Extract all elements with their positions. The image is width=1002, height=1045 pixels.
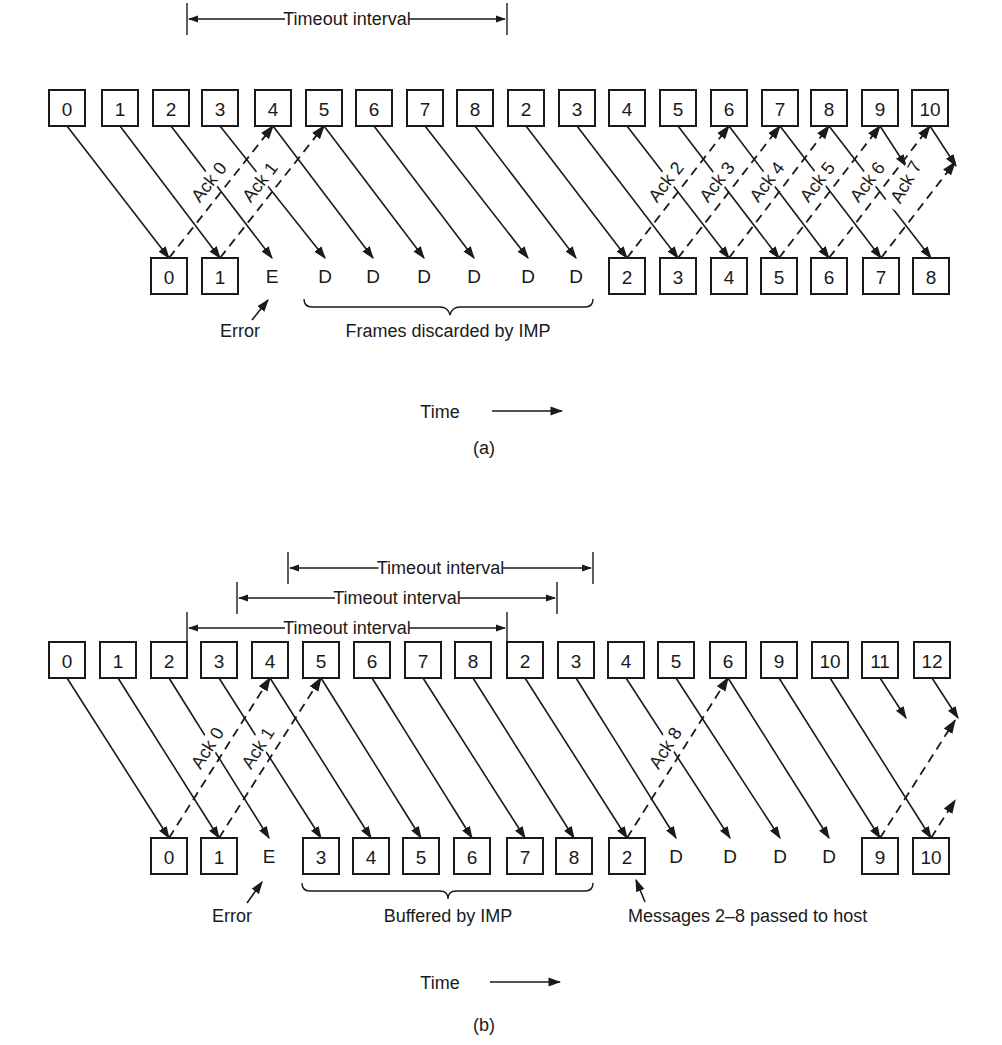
sent-frame: 7 bbox=[407, 90, 443, 126]
sent-frame: 12 bbox=[914, 642, 950, 678]
sent-frame: 6 bbox=[356, 90, 392, 126]
frame-transmission-line bbox=[525, 678, 627, 838]
sent-frame: 6 bbox=[710, 642, 746, 678]
frame-number: 4 bbox=[622, 99, 633, 120]
sent-frame: 1 bbox=[102, 90, 138, 126]
frame-transmission-line bbox=[321, 678, 421, 838]
frame-number: 8 bbox=[824, 99, 835, 120]
ack-line bbox=[880, 720, 955, 838]
sent-frame: 9 bbox=[862, 90, 898, 126]
caption-b: (b) bbox=[473, 1015, 495, 1035]
frame-number: 3 bbox=[215, 99, 226, 120]
frame-number: 5 bbox=[319, 99, 330, 120]
frame-transmission-line bbox=[475, 126, 576, 258]
timeout-label: Timeout interval bbox=[283, 9, 410, 29]
discarded-mark: D bbox=[723, 846, 737, 867]
frame-number: 5 bbox=[316, 651, 327, 672]
sent-frame: 10 bbox=[912, 90, 948, 126]
discarded-mark: D bbox=[569, 266, 583, 287]
frame-number: 7 bbox=[876, 267, 887, 288]
received-frames-row-a: 01EDDDDDD2345678 bbox=[151, 258, 949, 294]
frame-number: 7 bbox=[418, 651, 429, 672]
discarded-mark: D bbox=[521, 266, 535, 287]
error-annotation-b: Error bbox=[212, 882, 262, 926]
received-frame: 4 bbox=[353, 838, 389, 874]
go-back-n-vs-selective-repeat-diagram: Timeout interval Ack 0Ack 1Ack 2Ack 3Ack… bbox=[0, 0, 1002, 1045]
frame-number: 4 bbox=[366, 847, 377, 868]
sent-frame: 8 bbox=[457, 90, 493, 126]
sent-frame: 4 bbox=[252, 642, 288, 678]
mark-label: D bbox=[417, 266, 431, 287]
received-frame: 2 bbox=[609, 838, 645, 874]
sent-frame: 5 bbox=[658, 642, 694, 678]
sent-frame: 6 bbox=[711, 90, 747, 126]
timeout-interval: Timeout interval bbox=[187, 612, 507, 644]
frame-number: 6 bbox=[369, 99, 380, 120]
timeout-label: Timeout interval bbox=[283, 618, 410, 638]
received-frame: 4 bbox=[711, 258, 747, 294]
frame-transmission-line bbox=[676, 678, 780, 838]
frame-number: 3 bbox=[571, 651, 582, 672]
frame-number: 6 bbox=[723, 651, 734, 672]
frame-number: 9 bbox=[774, 651, 785, 672]
received-frame: 0 bbox=[151, 838, 187, 874]
ack-label: Ack 4 bbox=[745, 158, 788, 206]
mark-label: D bbox=[318, 266, 332, 287]
ack-line bbox=[931, 800, 955, 838]
frame-transmission-line bbox=[880, 678, 906, 718]
frame-number: 7 bbox=[520, 847, 531, 868]
frame-transmission-line bbox=[526, 126, 627, 258]
frame-number: 6 bbox=[724, 99, 735, 120]
discarded-mark: D bbox=[822, 846, 836, 867]
sent-frame: 3 bbox=[559, 90, 595, 126]
ack-label: Ack 7 bbox=[886, 157, 925, 206]
frame-number: 2 bbox=[521, 99, 532, 120]
frame-number: 12 bbox=[921, 651, 942, 672]
discarded-mark: D bbox=[773, 846, 787, 867]
discarded-mark: D bbox=[669, 846, 683, 867]
frame-transmission-line bbox=[779, 678, 880, 838]
frame-number: 10 bbox=[819, 651, 840, 672]
sent-frame: 0 bbox=[49, 642, 85, 678]
timeout-interval: Timeout interval bbox=[237, 582, 557, 614]
frame-number: 6 bbox=[467, 847, 478, 868]
frame-transmission-line bbox=[932, 678, 958, 718]
sent-frame: 4 bbox=[608, 642, 644, 678]
frame-number: 5 bbox=[671, 651, 682, 672]
frame-number: 3 bbox=[673, 267, 684, 288]
received-frame: 1 bbox=[201, 838, 237, 874]
time-label-a: Time bbox=[420, 402, 459, 422]
mark-label: E bbox=[263, 846, 276, 867]
received-frame: 8 bbox=[913, 258, 949, 294]
sent-frame: 2 bbox=[151, 642, 187, 678]
received-frame: 3 bbox=[660, 258, 696, 294]
discarded-mark: D bbox=[366, 266, 380, 287]
timeout-interval: Timeout interval bbox=[187, 3, 507, 35]
ack-label: Ack 1 bbox=[237, 724, 278, 773]
frame-number: 0 bbox=[62, 99, 73, 120]
timeout-interval: Timeout interval bbox=[288, 552, 593, 584]
frame-number: 5 bbox=[416, 847, 427, 868]
timeout-interval-a: Timeout interval bbox=[187, 3, 507, 35]
frame-number: 2 bbox=[622, 267, 633, 288]
sent-frame: 7 bbox=[405, 642, 441, 678]
sent-frame: 3 bbox=[201, 642, 237, 678]
timeout-label: Timeout interval bbox=[377, 558, 504, 578]
frame-number: 4 bbox=[621, 651, 632, 672]
sent-frame: 4 bbox=[609, 90, 645, 126]
ack-label: Ack 0 bbox=[187, 724, 228, 773]
caption-a: (a) bbox=[473, 438, 495, 458]
frame-number: 4 bbox=[265, 651, 276, 672]
frame-number: 8 bbox=[468, 651, 479, 672]
frame-number: 2 bbox=[166, 99, 177, 120]
timeout-intervals-b: Timeout intervalTimeout intervalTimeout … bbox=[187, 552, 593, 644]
panel-a-go-back-n: Timeout interval Ack 0Ack 1Ack 2Ack 3Ack… bbox=[49, 3, 956, 458]
discarded-mark: D bbox=[318, 266, 332, 287]
sent-frame: 6 bbox=[354, 642, 390, 678]
frame-number: 10 bbox=[919, 99, 940, 120]
frame-transmission-line bbox=[67, 126, 169, 258]
time-label-b: Time bbox=[420, 973, 459, 993]
frame-number: 8 bbox=[470, 99, 481, 120]
received-frame: 5 bbox=[761, 258, 797, 294]
received-frame: 5 bbox=[403, 838, 439, 874]
